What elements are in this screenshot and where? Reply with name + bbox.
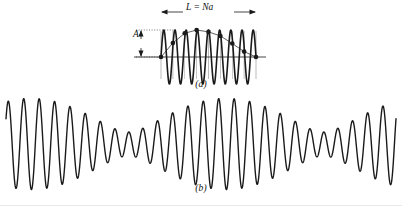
sample-point	[254, 55, 259, 60]
amplitude-arrow-group	[139, 30, 144, 57]
caption-panel-b: (b)	[0, 183, 402, 193]
length-arrow-head-right	[250, 9, 257, 14]
sample-point	[194, 28, 199, 33]
length-label: L = Na	[186, 2, 213, 12]
sample-point	[230, 41, 235, 46]
sample-point	[182, 31, 187, 36]
sample-point	[242, 49, 247, 54]
beating-waveform	[6, 99, 396, 190]
amplitude-arrow-head-bottom	[139, 51, 144, 58]
caption-panel-a: (a)	[0, 79, 402, 89]
amplitude-arrow-head-top	[139, 30, 144, 37]
sample-point	[171, 41, 176, 46]
sample-drop-lines	[161, 31, 256, 79]
amplitude-label: A	[133, 29, 139, 39]
sample-point	[159, 55, 164, 60]
length-arrow-head-left	[161, 9, 168, 14]
bottom-divider	[0, 205, 402, 206]
figure-root: L = Na A (a) (b)	[0, 0, 402, 208]
sample-point	[206, 30, 211, 35]
sample-point	[218, 34, 223, 39]
